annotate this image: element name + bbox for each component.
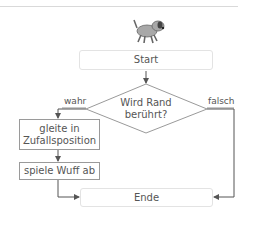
- start-label: Start: [134, 54, 158, 66]
- no-branch-label: falsch: [208, 96, 235, 106]
- decision-line1: Wird Rand: [106, 97, 186, 109]
- yes-branch-label: wahr: [64, 96, 86, 106]
- dog-sprite-icon: [134, 20, 164, 43]
- end-label: Ende: [134, 192, 159, 204]
- decision-line2: berührt?: [106, 109, 186, 121]
- start-terminal: Start: [79, 50, 213, 70]
- step2-label: spiele Wuff ab: [24, 165, 95, 177]
- step1-line2: Zufallsposition: [23, 135, 96, 147]
- end-terminal: Ende: [80, 188, 213, 207]
- glide-random-step: gleite in Zufallsposition: [19, 119, 100, 150]
- step1-line1: gleite in: [39, 123, 79, 135]
- play-sound-step: spiele Wuff ab: [19, 162, 100, 180]
- decision-text: Wird Rand berührt?: [106, 97, 186, 121]
